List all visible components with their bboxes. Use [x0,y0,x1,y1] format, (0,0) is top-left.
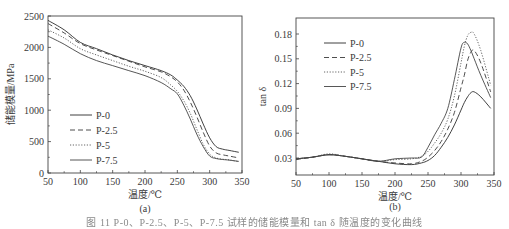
y-axis-label: 储能模量/MPa [4,63,16,125]
y-axis-label: tan δ [257,87,268,107]
y-tick-label: 1500 [24,73,44,84]
y-tick-label: 500 [29,136,44,147]
x-tick-label: 350 [235,176,250,187]
legend-label: P-0 [96,110,110,121]
series-line-p-0 [296,92,491,165]
series-line-p-5 [48,30,239,162]
legend-label: P-5 [96,140,110,151]
series-line-p-2-5 [296,50,491,164]
x-tick-label: 250 [421,178,436,189]
series-line-p-5 [296,32,491,161]
x-tick-label: 200 [388,178,403,189]
x-tick-label: 350 [487,178,502,189]
y-tick-label: 0.12 [275,78,293,89]
series-line-p-7-5 [48,36,239,161]
figure: 5010015020025030035005001000150020002500… [0,0,509,229]
y-tick-label: 2500 [24,11,44,22]
chart-tan-delta: 501001502002503003500.030.060.090.120.15… [257,18,502,213]
x-axis-label: 温度/℃ [128,188,162,200]
figure-caption: 图 11 P-0、P-2.5、P-5、P-7.5 试样的储能模量和 tan δ … [0,214,509,229]
y-tick-label: 0.09 [275,103,293,114]
x-tick-label: 100 [322,178,337,189]
y-tick-label: 0.06 [275,128,293,139]
x-tick-label: 200 [138,176,153,187]
plot-frame [296,18,494,175]
x-tick-label: 100 [73,176,88,187]
y-tick-label: 0.15 [275,53,293,64]
plot-frame [48,16,242,173]
series-line-p-7-5 [296,42,491,161]
legend-label: P-7.5 [96,155,117,166]
y-tick-label: 2000 [24,42,44,53]
panel-label: (b) [389,201,401,213]
legend-label: P-2.5 [350,52,371,63]
legend-label: P-5 [350,67,364,78]
y-tick-label: 0 [39,168,44,179]
chart-storage-modulus: 5010015020025030035005001000150020002500… [4,11,250,216]
legend-label: P-7.5 [350,81,371,92]
y-tick-label: 0.18 [275,29,293,40]
legend-label: P-2.5 [96,125,117,136]
series-line-p-0 [48,20,239,152]
x-tick-label: 50 [291,178,301,189]
legend-label: P-0 [350,38,364,49]
x-tick-label: 250 [170,176,185,187]
y-tick-label: 1000 [24,105,44,116]
x-tick-label: 300 [454,178,469,189]
y-tick-label: 0.03 [275,153,293,164]
x-tick-label: 150 [355,178,370,189]
x-tick-label: 50 [43,176,53,187]
x-tick-label: 300 [202,176,217,187]
x-tick-label: 150 [105,176,120,187]
